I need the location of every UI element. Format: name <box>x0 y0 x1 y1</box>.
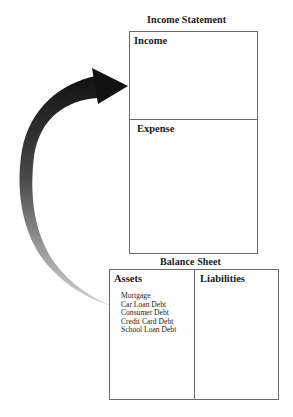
income-statement-title: Income Statement <box>147 14 226 25</box>
assets-item-list: Mortgage Car Loan Debt Consumer Debt Cre… <box>121 292 176 335</box>
income-section-label: Income <box>134 35 167 46</box>
assets-column-label: Assets <box>114 273 142 284</box>
income-expense-divider <box>130 119 257 120</box>
expense-section-label: Expense <box>137 123 174 134</box>
list-item: School Loan Debt <box>121 326 176 335</box>
balance-sheet-title: Balance Sheet <box>160 256 221 267</box>
liabilities-column-label: Liabilities <box>200 273 245 284</box>
assets-liabilities-divider <box>194 270 195 399</box>
balance-sheet-box: Assets Mortgage Car Loan Debt Consumer D… <box>109 269 279 400</box>
income-statement-box: Income Expense <box>129 31 258 254</box>
